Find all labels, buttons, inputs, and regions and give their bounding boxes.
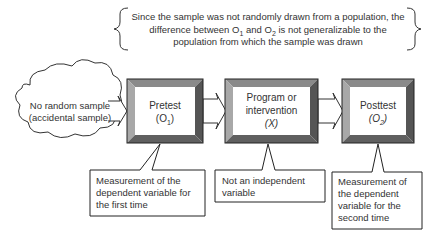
right-brace (407, 8, 421, 50)
left-brace (114, 8, 128, 50)
program-label: Program or intervention (X) (233, 91, 310, 130)
callout-pretest-text: Measurement of the dependent variable fo… (96, 175, 204, 211)
cloud-label: No random sample (accidental sample) (20, 100, 120, 124)
pretest-label: Pretest (O1) (135, 99, 195, 125)
callout-program-text: Not an independent variable (222, 175, 322, 199)
callout-posttest-text: Measurement of the dependent variable fo… (338, 176, 422, 224)
arrow-pretest-to-program (203, 93, 226, 129)
cloud-shape (15, 60, 121, 138)
arrow-program-to-posttest (318, 93, 343, 129)
brace-note: Since the sample was not randomly drawn … (128, 11, 408, 49)
posttest-label: Posttest (O2) (350, 99, 406, 125)
